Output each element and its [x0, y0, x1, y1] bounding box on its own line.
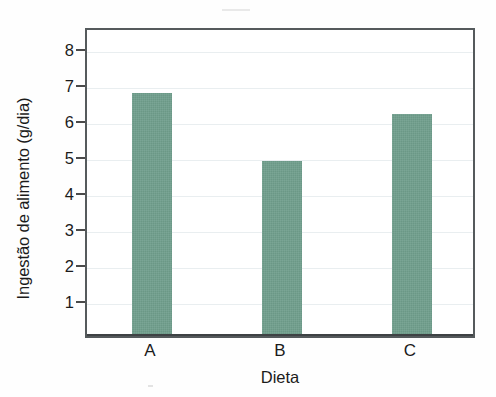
y-axis-tick-label-group: 12345678 — [46, 0, 74, 397]
bar-chart-figure: Ingestão de alimento (g/dia) 12345678 AB… — [0, 0, 496, 397]
y-axis-tick-label: 3 — [48, 222, 74, 239]
y-axis-tick-label: 1 — [48, 294, 74, 311]
scan-artifact — [148, 385, 153, 387]
y-axis-title: Ingestão de alimento (g/dia) — [0, 0, 46, 397]
gridline — [87, 88, 473, 89]
plot-area — [85, 28, 475, 338]
y-axis-tick-label: 4 — [48, 186, 74, 203]
y-axis-tick-label: 6 — [48, 113, 74, 130]
bar — [132, 93, 172, 335]
gridline — [87, 52, 473, 53]
bar — [392, 114, 432, 335]
x-axis-tick-label-group: ABC — [85, 342, 475, 366]
scan-artifact — [222, 9, 250, 11]
x-axis-tick-label: C — [380, 342, 440, 359]
bar — [262, 161, 302, 335]
y-axis-tick-label: 7 — [48, 77, 74, 94]
y-axis-tick-label: 2 — [48, 258, 74, 275]
x-axis-tick-label: A — [120, 342, 180, 359]
x-axis-title: Dieta — [85, 368, 475, 387]
y-axis-tick-label: 5 — [48, 150, 74, 167]
x-axis-tick-label: B — [250, 342, 310, 359]
y-axis-tick-label: 8 — [48, 41, 74, 58]
